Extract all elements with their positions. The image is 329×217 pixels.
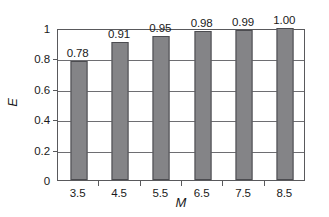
x-axis-tick-mark [98, 181, 99, 186]
x-axis-tick-mark [181, 181, 182, 186]
bar-slot [265, 30, 306, 180]
y-axis-tick-label: 0.6 [2, 84, 50, 96]
bar-slot [223, 30, 264, 180]
x-axis-tick-mark [264, 181, 265, 186]
y-axis-tick-label: 0.2 [2, 145, 50, 157]
x-axis-title: M [57, 196, 305, 209]
bar[interactable] [277, 28, 294, 180]
bar[interactable] [70, 61, 87, 180]
x-axis-tick-mark [222, 181, 223, 186]
bar[interactable] [236, 30, 253, 180]
bar-slot [182, 30, 223, 180]
bar-slot [141, 30, 182, 180]
y-axis-tick-label: 1 [2, 23, 50, 35]
bar[interactable] [112, 42, 129, 180]
bar[interactable] [153, 36, 170, 180]
y-axis-tick-label: 0.8 [2, 53, 50, 65]
bar[interactable] [194, 31, 211, 180]
bar-chart-figure: E 00.20.40.60.81 0.780.910.950.980.991.0… [0, 0, 329, 217]
y-axis-tick-label: 0.4 [2, 114, 50, 126]
bar-data-label: 0.95 [140, 22, 181, 34]
bar-data-label: 0.78 [57, 47, 98, 59]
bar-data-label: 0.98 [181, 17, 222, 29]
x-axis-tick-mark [140, 181, 141, 186]
bar-slot [99, 30, 140, 180]
bar-data-label: 0.91 [98, 28, 139, 40]
bar-data-label: 0.99 [222, 16, 263, 28]
y-axis-tick-label: 0 [2, 175, 50, 187]
y-axis-title: E [6, 98, 19, 107]
bar-data-label: 1.00 [264, 14, 305, 26]
